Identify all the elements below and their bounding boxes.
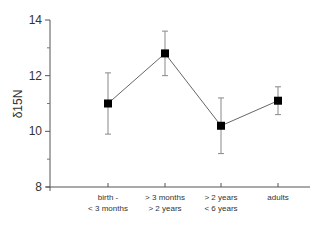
- x-tick-label: > 2 years: [148, 204, 181, 213]
- line-chart: 8101214birth -< 3 months> 3 months> 2 ye…: [0, 0, 324, 225]
- series-line: [108, 53, 278, 125]
- x-tick-label: < 6 years: [204, 204, 237, 213]
- data-point-marker: [104, 100, 112, 108]
- chart-container: 8101214birth -< 3 months> 3 months> 2 ye…: [0, 0, 324, 225]
- y-tick-label: 14: [29, 13, 43, 27]
- axes: 8101214birth -< 3 months> 3 months> 2 ye…: [29, 13, 310, 213]
- x-tick-label: < 3 months: [88, 204, 128, 213]
- y-tick-label: 12: [29, 69, 43, 83]
- x-tick-label: > 2 years: [204, 193, 237, 202]
- x-tick-label: birth -: [98, 193, 119, 202]
- y-tick-label: 8: [35, 180, 42, 194]
- data-point-marker: [217, 122, 225, 130]
- x-tick-label: adults: [267, 193, 288, 202]
- x-tick-label: > 3 months: [145, 193, 185, 202]
- data-series: [104, 31, 282, 153]
- data-point-marker: [274, 97, 282, 105]
- y-axis-label: δ15N: [11, 90, 25, 119]
- data-point-marker: [161, 49, 169, 57]
- y-tick-label: 10: [29, 124, 43, 138]
